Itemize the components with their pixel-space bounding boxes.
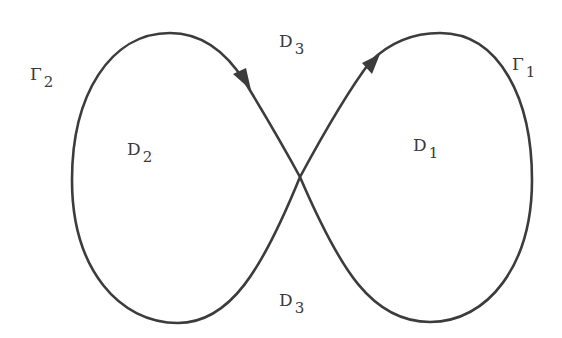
label-d1-sub: 1 <box>429 144 439 162</box>
label-d3-top-main: D <box>279 31 293 51</box>
label-gamma-2-sub: 2 <box>44 73 54 91</box>
curve-gamma-2 <box>72 33 300 323</box>
arrow-down-right-icon <box>233 68 251 90</box>
label-region-d3-bottom: D3 <box>279 292 304 316</box>
label-region-d3-top: D3 <box>279 33 304 57</box>
label-d2-sub: 2 <box>143 148 153 166</box>
figure-eight-diagram: Γ2 Γ1 D2 D1 D3 D3 <box>0 0 562 338</box>
label-d1-main: D <box>413 135 427 155</box>
label-gamma-1-main: Γ <box>512 54 524 74</box>
label-gamma-2-main: Γ <box>30 64 42 84</box>
label-gamma-1: Γ1 <box>512 56 535 80</box>
label-d2-main: D <box>127 139 141 159</box>
curve-gamma-1 <box>300 33 532 322</box>
label-d3-bottom-main: D <box>279 290 293 310</box>
label-gamma-1-sub: 1 <box>526 63 536 81</box>
label-d3-bottom-sub: 3 <box>295 299 305 317</box>
label-d3-top-sub: 3 <box>295 40 305 58</box>
label-region-d1: D1 <box>413 137 438 161</box>
label-gamma-2: Γ2 <box>30 66 53 90</box>
label-region-d2: D2 <box>127 141 152 165</box>
